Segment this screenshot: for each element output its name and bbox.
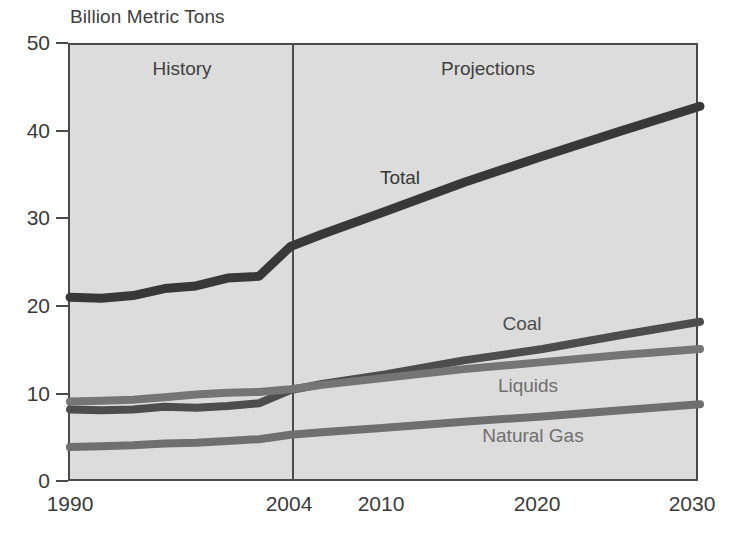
x-tick-label-1990: 1990 <box>47 492 94 516</box>
series-lines <box>70 45 700 483</box>
y-tick-mark-10 <box>56 393 68 395</box>
y-tick-label-0: 0 <box>0 469 50 493</box>
y-tick-mark-0 <box>56 480 68 482</box>
y-tick-mark-20 <box>56 305 68 307</box>
line-natural-gas <box>70 404 700 447</box>
series-label-total: Total <box>380 167 420 189</box>
y-tick-label-10: 10 <box>0 382 50 406</box>
y-tick-mark-30 <box>56 217 68 219</box>
line-total <box>70 106 700 298</box>
y-tick-label-30: 30 <box>0 206 50 230</box>
y-tick-label-50: 50 <box>0 31 50 55</box>
line-coal <box>70 322 700 410</box>
emissions-chart-figure: Billion Metric Tons 50 40 30 20 10 0 His… <box>0 0 730 534</box>
y-tick-label-20: 20 <box>0 294 50 318</box>
y-axis-title: Billion Metric Tons <box>70 6 225 28</box>
x-tick-label-2030: 2030 <box>669 492 716 516</box>
x-tick-label-2004: 2004 <box>266 492 313 516</box>
x-tick-label-2010: 2010 <box>358 492 405 516</box>
series-label-liquids: Liquids <box>498 375 558 397</box>
x-tick-label-2020: 2020 <box>514 492 561 516</box>
region-label-projections: Projections <box>441 58 535 80</box>
y-tick-mark-40 <box>56 130 68 132</box>
region-label-history: History <box>152 58 211 80</box>
series-label-natural-gas: Natural Gas <box>482 425 583 447</box>
line-liquids <box>70 349 700 402</box>
y-tick-mark-50 <box>56 42 68 44</box>
y-tick-label-40: 40 <box>0 119 50 143</box>
history-projections-divider <box>292 45 294 479</box>
series-label-coal: Coal <box>502 313 541 335</box>
plot-area: History Projections Total Coal Liquids N… <box>68 43 698 481</box>
